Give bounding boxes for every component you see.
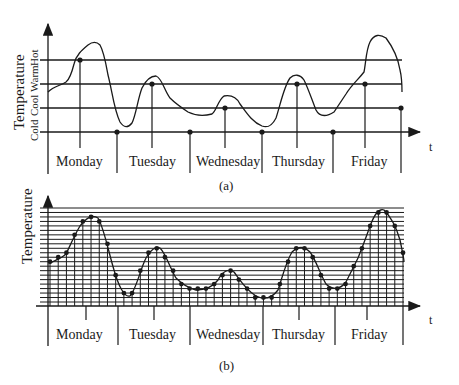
level-label-hot: Hot bbox=[28, 50, 40, 67]
day-label-b-monday: Monday bbox=[56, 327, 103, 342]
sample-dots-a bbox=[77, 57, 403, 134]
x-axis-label-b: t bbox=[429, 313, 433, 327]
caption-a: (a) bbox=[219, 178, 233, 193]
level-label-cold: Cold bbox=[28, 119, 40, 141]
day-label-b-thursday: Thursday bbox=[272, 327, 325, 342]
level-label-warm: Warm bbox=[28, 65, 40, 92]
sample-stems-b bbox=[50, 212, 403, 306]
day-label-a-tuesday: Tuesday bbox=[129, 154, 176, 169]
day-label-a-monday: Monday bbox=[56, 154, 103, 169]
day-label-a-thursday: Thursday bbox=[272, 154, 325, 169]
level-label-cool: Cool bbox=[28, 95, 40, 116]
y-axis-label-a: Temperature bbox=[11, 54, 27, 130]
day-label-a-wednesday: Wednesday bbox=[196, 154, 260, 169]
figure-b bbox=[36, 196, 420, 346]
y-axis-label-b: Temperature bbox=[19, 188, 35, 264]
day-label-b-friday: Friday bbox=[351, 327, 388, 342]
caption-b: (b) bbox=[219, 358, 234, 373]
figure-a bbox=[40, 24, 420, 174]
sampling-diagram: Temperature Cold Cool Warm Hot t Monday … bbox=[0, 0, 459, 385]
day-label-b-tuesday: Tuesday bbox=[129, 327, 176, 342]
day-label-a-friday: Friday bbox=[351, 154, 388, 169]
x-axis-label-a: t bbox=[429, 140, 433, 154]
day-label-b-wednesday: Wednesday bbox=[196, 327, 260, 342]
temperature-curve-b bbox=[50, 210, 404, 298]
